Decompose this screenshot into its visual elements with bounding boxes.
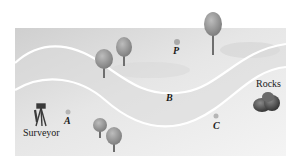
label-point-b: B: [166, 93, 173, 103]
label-point-a: A: [64, 116, 71, 126]
point-a-marker: [66, 110, 71, 115]
label-point-c: C: [213, 121, 220, 131]
label-point-p: P: [173, 46, 179, 56]
point-c-marker: [214, 114, 219, 119]
label-rocks: Rocks: [256, 79, 281, 89]
label-surveyor: Surveyor: [23, 128, 60, 138]
survey-diagram: P A B C Surveyor Rocks: [0, 0, 303, 165]
